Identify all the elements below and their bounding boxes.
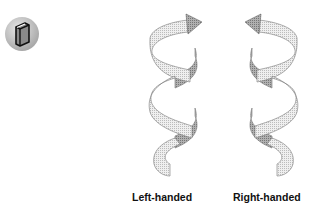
book-icon xyxy=(4,16,40,52)
right-handed-helix xyxy=(237,8,307,178)
left-handed-label: Left-handed xyxy=(132,191,192,203)
right-handed-label: Right-handed xyxy=(233,191,301,203)
left-handed-helix xyxy=(140,8,210,178)
